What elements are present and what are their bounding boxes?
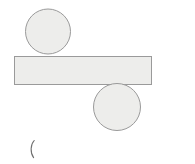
bottom-circle-shape <box>94 84 141 131</box>
top-circle-shape <box>26 9 71 54</box>
shapes-diagram <box>0 0 195 164</box>
diagram-canvas <box>0 0 195 164</box>
horizontal-bar-shape <box>15 57 152 85</box>
